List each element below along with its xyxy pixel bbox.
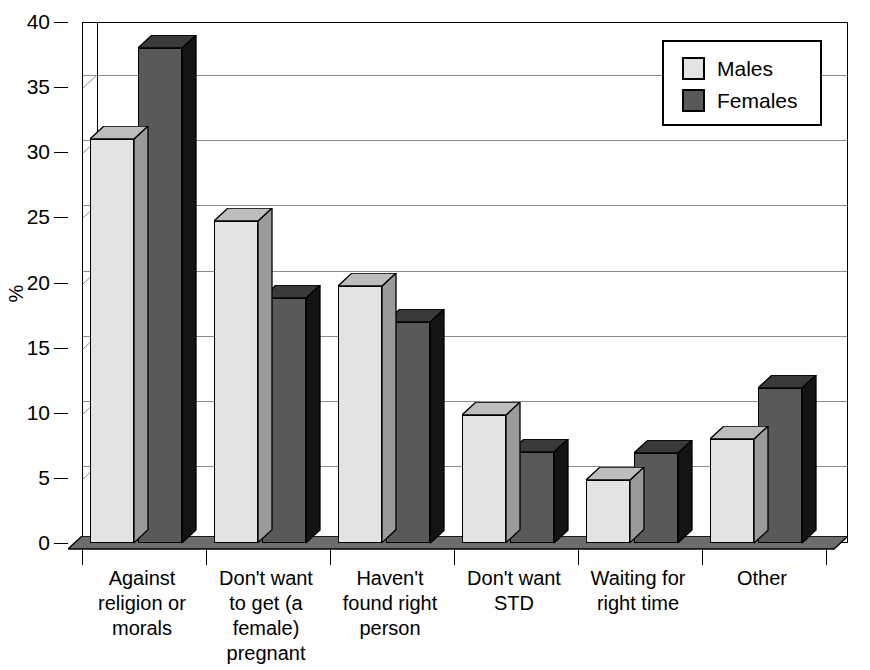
x-axis-label-4: Waiting forright time — [573, 566, 703, 616]
dark-gray-swatch-icon — [682, 89, 705, 112]
x-axis-label-0: Againstreligion ormorals — [77, 566, 207, 641]
legend-item-males: Males — [682, 52, 820, 84]
x-axis-label-line: found right — [325, 591, 455, 616]
y-tick-5 — [54, 478, 68, 479]
x-tick-2 — [330, 548, 331, 565]
x-axis-label-line: Other — [697, 566, 827, 591]
y-axis-title: % — [5, 274, 28, 314]
bar-top-face — [758, 375, 818, 390]
x-axis-label-line: religion or — [77, 591, 207, 616]
x-tick-1 — [206, 548, 207, 565]
x-tick-4 — [578, 548, 579, 565]
x-axis-label-line: Waiting for — [573, 566, 703, 591]
bar-side-face — [554, 439, 570, 545]
bar-top-face — [710, 426, 770, 441]
x-axis-label-3: Don't wantSTD — [449, 566, 579, 616]
bar-males-2 — [338, 286, 382, 543]
bar-side-face — [506, 402, 522, 545]
x-axis-label-5: Other — [697, 566, 827, 591]
bar-males-3 — [462, 415, 506, 543]
bar-top-face — [214, 208, 274, 223]
y-tick-15 — [54, 348, 68, 349]
y-tick-label-10: 10 — [6, 402, 50, 423]
x-axis-label-1: Don't wantto get (afemale)pregnant — [201, 566, 331, 666]
x-axis-label-line: female) — [201, 616, 331, 641]
bar-front-face — [338, 286, 382, 543]
bar-side-face — [306, 285, 322, 545]
x-axis-label-line: STD — [449, 591, 579, 616]
y-tick-10 — [54, 413, 68, 414]
bar-side-face — [754, 426, 770, 545]
y-tick-0 — [54, 543, 68, 544]
x-axis-label-line: Against — [77, 566, 207, 591]
y-tick-label-40: 40 — [6, 11, 50, 32]
bar-side-face — [182, 35, 198, 545]
y-tick-40 — [54, 22, 68, 23]
y-tick-label-35: 35 — [6, 76, 50, 97]
x-axis-label-line: right time — [573, 591, 703, 616]
bar-front-face — [710, 439, 754, 543]
x-axis-label-line: morals — [77, 616, 207, 641]
legend-item-females: Females — [682, 84, 820, 116]
y-axis-labels: 0510152025303540 — [0, 0, 50, 670]
bar-side-face — [430, 309, 446, 545]
bar-side-face — [134, 126, 150, 545]
y-tick-label-30: 30 — [6, 141, 50, 162]
bar-side-face — [258, 208, 274, 545]
bar-males-4 — [586, 480, 630, 543]
bar-top-face — [338, 273, 398, 288]
bar-top-face — [586, 467, 646, 482]
light-gray-swatch-icon — [682, 57, 705, 80]
x-tick-5 — [702, 548, 703, 565]
y-tick-label-0: 0 — [6, 532, 50, 553]
x-axis-label-line: to get (a — [201, 591, 331, 616]
legend-label-males: Males — [717, 58, 773, 79]
x-axis-label-2: Haven'tfound rightperson — [325, 566, 455, 641]
x-axis-label-line: Haven't — [325, 566, 455, 591]
bar-top-face — [634, 440, 694, 455]
bar-side-face — [382, 273, 398, 545]
bar-top-face — [138, 35, 198, 50]
bar-side-face — [678, 440, 694, 545]
bar-side-face — [802, 375, 818, 545]
legend-label-females: Females — [717, 90, 798, 111]
y-tick-label-25: 25 — [6, 206, 50, 227]
x-axis-label-line: Don't want — [201, 566, 331, 591]
x-axis-label-line: pregnant — [201, 641, 331, 666]
bar-front-face — [214, 221, 258, 543]
bar-males-0 — [90, 139, 134, 543]
x-axis-label-line: person — [325, 616, 455, 641]
y-tick-30 — [54, 152, 68, 153]
y-tick-25 — [54, 217, 68, 218]
y-tick-label-5: 5 — [6, 467, 50, 488]
bar-front-face — [90, 139, 134, 543]
x-tick-3 — [454, 548, 455, 565]
y-tick-20 — [54, 283, 68, 284]
chart-root: 0510152025303540 % Againstreligion ormor… — [0, 0, 870, 670]
bar-top-face — [90, 126, 150, 141]
bar-front-face — [586, 480, 630, 543]
y-tick-label-15: 15 — [6, 337, 50, 358]
x-axis-label-line: Don't want — [449, 566, 579, 591]
bar-males-5 — [710, 439, 754, 543]
x-tick-6 — [826, 548, 827, 565]
bar-males-1 — [214, 221, 258, 543]
legend: Males Females — [662, 40, 822, 126]
y-tick-35 — [54, 87, 68, 88]
bar-front-face — [462, 415, 506, 543]
bar-top-face — [462, 402, 522, 417]
x-tick-0 — [82, 548, 83, 565]
